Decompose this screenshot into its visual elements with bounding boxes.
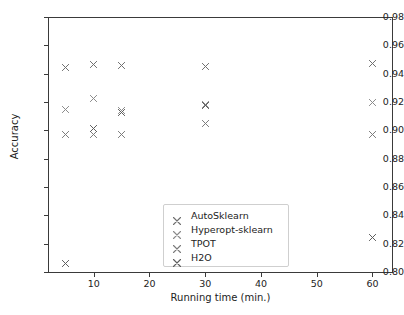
y-tick-mark [44, 159, 48, 160]
y-tick-label: 0.94 [364, 69, 404, 79]
y-tick-label: 0.86 [364, 182, 404, 192]
data-point-marker [117, 61, 126, 70]
y-tick-label: 0.96 [364, 40, 404, 50]
legend-marker-x-icon [172, 211, 182, 221]
legend-marker-x-icon [172, 225, 182, 235]
axis-spine-top [48, 17, 393, 18]
scatter-plot-figure: 0.800.820.840.860.880.900.920.940.960.98… [0, 0, 404, 315]
data-point-marker [89, 60, 98, 69]
y-tick-label: 0.82 [364, 239, 404, 249]
legend-item-label: H2O [191, 251, 212, 265]
y-tick-mark [44, 244, 48, 245]
x-tick-mark [149, 273, 150, 277]
y-tick-mark [44, 215, 48, 216]
y-tick-mark [44, 272, 48, 273]
x-tick-mark [205, 273, 206, 277]
data-point-marker [201, 62, 210, 71]
data-point-marker [61, 130, 70, 139]
x-tick-label: 50 [297, 279, 337, 289]
legend-item: AutoSklearn [164, 209, 288, 223]
data-point-marker [117, 106, 126, 115]
legend-item-label: AutoSklearn [191, 209, 249, 223]
x-tick-label: 10 [74, 279, 114, 289]
y-tick-mark [44, 102, 48, 103]
data-point-marker [117, 108, 126, 117]
y-tick-label: 0.90 [364, 125, 404, 135]
data-point-marker [61, 259, 70, 268]
data-point-marker [117, 130, 126, 139]
data-point-marker [201, 100, 210, 109]
legend-item-label: TPOT [191, 237, 216, 251]
legend-item: TPOT [164, 237, 288, 251]
y-tick-label: 0.84 [364, 210, 404, 220]
y-tick-mark [44, 187, 48, 188]
data-point-marker [89, 130, 98, 139]
y-tick-mark [44, 130, 48, 131]
data-point-marker [368, 59, 377, 68]
x-tick-mark [372, 273, 373, 277]
data-point-marker [61, 105, 70, 114]
legend-box: AutoSklearnHyperopt-sklearnTPOTH2O [163, 204, 289, 267]
y-tick-label: 0.80 [364, 267, 404, 277]
x-axis-label: Running time (min.) [48, 292, 393, 303]
x-tick-mark [94, 273, 95, 277]
y-axis-label: Accuracy [9, 92, 20, 182]
y-tick-mark [44, 45, 48, 46]
data-point-marker [201, 101, 210, 110]
y-tick-mark [44, 74, 48, 75]
y-tick-mark [44, 17, 48, 18]
data-point-marker [89, 94, 98, 103]
x-tick-mark [317, 273, 318, 277]
x-tick-label: 30 [185, 279, 225, 289]
axis-spine-right [392, 17, 393, 273]
y-tick-label: 0.88 [364, 154, 404, 164]
legend-item: Hyperopt-sklearn [164, 223, 288, 237]
x-tick-mark [261, 273, 262, 277]
legend-marker-x-icon [172, 239, 182, 249]
x-tick-label: 60 [352, 279, 392, 289]
legend-item-label: Hyperopt-sklearn [191, 223, 273, 237]
y-tick-label: 0.98 [364, 12, 404, 22]
data-point-marker [89, 124, 98, 133]
y-tick-label: 0.92 [364, 97, 404, 107]
axis-spine-left [48, 17, 49, 273]
legend-item: H2O [164, 251, 288, 265]
axis-spine-bottom [48, 272, 393, 273]
data-point-marker [61, 63, 70, 72]
x-tick-label: 40 [241, 279, 281, 289]
data-point-marker [201, 119, 210, 128]
legend-marker-x-icon [172, 253, 182, 263]
x-tick-label: 20 [129, 279, 169, 289]
